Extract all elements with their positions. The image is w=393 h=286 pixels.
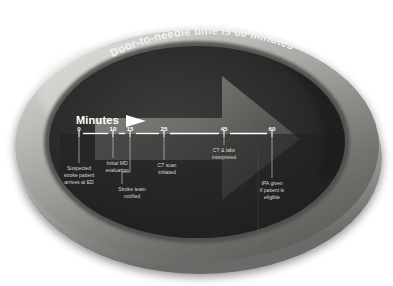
- tick-label-45: 45: [221, 125, 228, 132]
- event-label-10-line-0: Initial MD: [106, 160, 128, 166]
- event-label-0-line-1: stroke patient: [64, 172, 95, 178]
- event-label-0-line-2: arrives at ED: [64, 179, 94, 185]
- tick-label-15: 15: [127, 125, 134, 132]
- door-to-needle-timeline-graphic: Door-to-needle time is 60 minutes Minute…: [0, 0, 393, 286]
- event-label-25: CT scan initiated: [158, 162, 177, 175]
- event-label-0: Suspected stroke patient arrives at ED: [64, 165, 95, 185]
- event-label-60-line-1: if patient is: [260, 187, 285, 193]
- event-label-10-line-1: evaluation: [105, 167, 128, 173]
- tick-label-60: 60: [269, 125, 276, 132]
- event-label-0-line-0: Suspected: [67, 165, 91, 171]
- tick-label-25: 25: [161, 125, 168, 132]
- event-label-15-line-1: notified: [124, 193, 141, 199]
- infographic-canvas: Door-to-needle time is 60 minutes Minute…: [0, 0, 393, 286]
- event-label-15-line-0: Stroke team: [118, 186, 145, 192]
- event-label-45: CT & labs interpreted: [212, 147, 237, 160]
- event-label-60-line-2: eligible: [264, 194, 280, 200]
- event-label-45-line-0: CT & labs: [213, 147, 236, 153]
- event-label-25-line-0: CT scan: [158, 162, 177, 168]
- event-label-45-line-1: interpreted: [212, 154, 237, 160]
- tick-label-0: 0: [77, 125, 81, 132]
- tick-label-10: 10: [110, 125, 117, 132]
- event-label-10: Initial MD evaluation: [105, 160, 128, 173]
- event-label-60-line-0: tPA given: [261, 180, 282, 186]
- event-label-25-line-1: initiated: [158, 169, 176, 175]
